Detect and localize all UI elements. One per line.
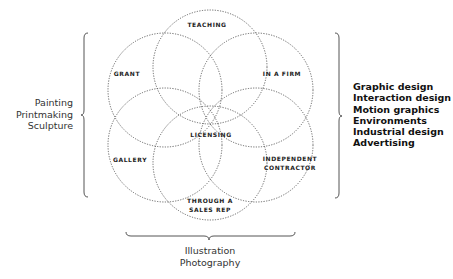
label-gallery: GALLERY	[113, 155, 147, 164]
right-group-item: Interaction design	[353, 92, 451, 103]
right-group-item: Environments	[353, 115, 451, 126]
right-group-item: Advertising	[353, 137, 451, 148]
right-group-item: Graphic design	[353, 81, 451, 92]
left-group-item: Painting	[16, 97, 73, 109]
circle-gallery	[108, 88, 222, 202]
right-group-item: Industrial design	[353, 126, 451, 137]
label-sales-line2: SALES REP	[187, 205, 233, 214]
label-through-a-sales-rep: THROUGH A SALES REP	[187, 196, 233, 214]
circle-independent-contractor	[199, 88, 313, 202]
bottom-brace	[126, 232, 295, 240]
label-independent-line1: INDEPENDENT	[263, 154, 318, 163]
label-teaching: TEACHING	[187, 20, 226, 29]
left-group-fine-arts: Painting Printmaking Sculpture	[16, 97, 73, 132]
bottom-group-imaging: Illustration Photography	[180, 245, 241, 268]
label-independent-line2: CONTRACTOR	[263, 163, 318, 172]
right-group-design: Graphic design Interaction design Motion…	[353, 81, 451, 149]
right-brace	[335, 33, 342, 198]
left-group-item: Sculpture	[16, 120, 73, 132]
label-in-a-firm: IN A FIRM	[263, 69, 301, 78]
label-licensing: LICENSING	[190, 130, 231, 139]
left-brace	[81, 33, 88, 197]
right-group-item: Motion graphics	[353, 104, 451, 115]
bottom-group-item: Illustration	[180, 245, 241, 257]
label-independent-contractor: INDEPENDENT CONTRACTOR	[263, 154, 318, 172]
label-grant: GRANT	[114, 69, 140, 78]
label-sales-line1: THROUGH A	[187, 196, 233, 205]
left-group-item: Printmaking	[16, 109, 73, 121]
bottom-group-item: Photography	[180, 257, 241, 269]
